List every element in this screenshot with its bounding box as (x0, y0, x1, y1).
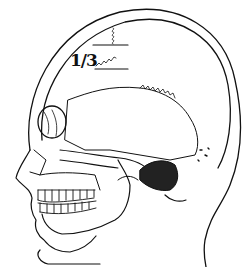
one-third-label: 1/3 (70, 50, 97, 70)
head-outline (29, 9, 241, 267)
suture-squiggle-bottom (96, 57, 116, 66)
suture-squiggle-top (112, 28, 114, 44)
orbit-shade (44, 110, 57, 136)
nasal-cavity (30, 150, 46, 175)
skull-vault (42, 19, 231, 168)
occipital-dots (198, 148, 209, 161)
temporal-bone (65, 87, 198, 160)
skull-head-diagram (0, 0, 250, 267)
upper-teeth (38, 190, 95, 202)
lower-teeth (38, 201, 96, 214)
maxilla (40, 173, 100, 190)
zygomatic-arch (60, 150, 150, 172)
mandible (42, 160, 130, 234)
face-profile (16, 150, 96, 252)
mastoid-region (140, 161, 178, 191)
ear-process (165, 195, 186, 201)
